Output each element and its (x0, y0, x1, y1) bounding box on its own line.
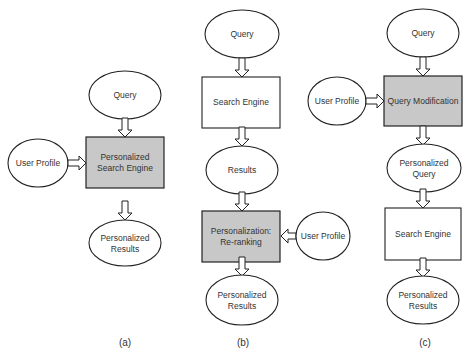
label: Query (230, 29, 254, 39)
arrow-results-to-rerank-b (235, 192, 249, 211)
label: User Profile (301, 231, 346, 241)
node-user-profile-a: User Profile (8, 139, 68, 187)
node-user-profile-c: User Profile (308, 77, 366, 125)
caption-c: (c) (419, 337, 431, 348)
arrow-query-to-modification-c (416, 57, 430, 76)
node-query-b: Query (205, 10, 279, 58)
arrow-profile-to-engine-a (68, 156, 86, 170)
label-line-2: Results (111, 244, 139, 254)
node-results-b: Results (206, 146, 278, 194)
label: User Profile (315, 96, 360, 106)
label-line-2: Results (409, 301, 437, 311)
label: Results (228, 165, 256, 175)
label-line-2: Re-ranking (220, 237, 262, 247)
arrow-profile-to-rerank-b (281, 229, 296, 243)
label-line-1: Personalized (398, 290, 447, 300)
label: Query Modification (388, 96, 459, 106)
node-personalized-search-engine-a: Personalized Search Engine (86, 137, 164, 188)
label-line-1: Personalized (100, 152, 149, 162)
node-personalization-reranking-b: Personalization: Re-ranking (202, 211, 280, 262)
label-line-2: Query (412, 169, 436, 179)
node-personalized-results-a: Personalized Results (89, 220, 161, 266)
label-line-1: Personalized (399, 158, 448, 168)
arrow-engine-to-results-a (118, 201, 132, 220)
node-query-a: Query (89, 71, 161, 119)
node-query-modification-c: Query Modification (384, 76, 462, 126)
node-personalized-results-c: Personalized Results (387, 276, 459, 324)
label-line-2: Results (228, 301, 256, 311)
node-search-engine-c: Search Engine (385, 208, 461, 260)
label-line-1: Personalization: (211, 226, 271, 236)
node-query-c: Query (387, 9, 459, 57)
node-search-engine-b: Search Engine (202, 77, 280, 128)
arrow-engine-to-results-c (416, 258, 430, 277)
label: Search Engine (213, 97, 269, 107)
arrow-query-to-engine-a (118, 118, 132, 137)
caption-a: (a) (119, 337, 131, 348)
node-user-profile-b: User Profile (296, 212, 350, 260)
label: Query (113, 90, 137, 100)
personalization-diagram: Query User Profile Personalized Search E… (0, 0, 472, 361)
label-line-1: Personalized (100, 233, 149, 243)
label-line-1: Personalized (217, 290, 266, 300)
panel-a: Query User Profile Personalized Search E… (8, 71, 164, 348)
node-personalized-query-c: Personalized Query (387, 144, 461, 192)
label: Search Engine (395, 229, 451, 239)
panel-c: Query User Profile Query Modification Pe… (308, 9, 462, 348)
caption-b: (b) (237, 337, 249, 348)
label-line-2: Search Engine (97, 163, 153, 173)
arrow-engine-to-results-b (235, 127, 249, 146)
arrow-profile-to-modification-c (366, 94, 384, 108)
label: User Profile (16, 158, 61, 168)
arrow-query-to-engine-b (235, 58, 249, 77)
panel-b: Query Search Engine Results Personalizat… (202, 10, 350, 348)
node-personalized-results-b: Personalized Results (206, 275, 278, 325)
label: Query (411, 28, 435, 38)
arrow-modification-to-pquery-c (416, 126, 430, 145)
